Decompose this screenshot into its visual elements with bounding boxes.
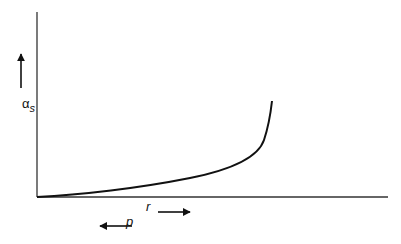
p-label: p <box>126 214 133 229</box>
chart <box>0 0 401 244</box>
r-label: r <box>146 199 150 214</box>
y-axis-label: αs <box>22 96 35 114</box>
data-curve <box>37 101 272 197</box>
